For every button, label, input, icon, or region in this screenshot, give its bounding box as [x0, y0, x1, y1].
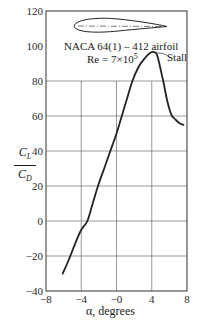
- y-tick-label: 0: [38, 215, 44, 227]
- grid-lines: [46, 81, 187, 291]
- x-axis-label: α, degrees: [86, 304, 135, 319]
- chart-title: NACA 64(1) – 412 airfoil: [64, 40, 178, 53]
- reynolds-number: Re = 7×105: [87, 52, 138, 65]
- data-curve: [63, 52, 184, 274]
- airfoil-shape: [74, 18, 167, 32]
- x-tick-label: −8: [40, 293, 52, 305]
- y-axis-label: CL CD: [14, 145, 36, 187]
- y-tick-label: 120: [27, 5, 44, 17]
- y-tick-label: 100: [27, 40, 44, 52]
- fraction-bar: [14, 165, 36, 166]
- y-tick-label: −20: [26, 250, 44, 262]
- stall-annotation: Stall: [167, 51, 187, 63]
- y-tick-label: 80: [32, 75, 44, 87]
- y-tick-label: 60: [32, 110, 44, 122]
- x-tick-label: 8: [184, 293, 190, 305]
- x-tick-label: 4: [149, 293, 155, 305]
